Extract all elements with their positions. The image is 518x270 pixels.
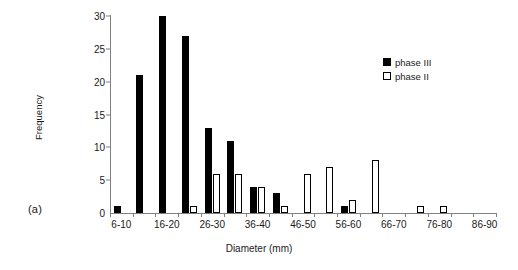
x-tick-mark	[224, 213, 225, 217]
x-tick-mark	[314, 213, 315, 217]
bar-phase-iii-16-20	[159, 16, 166, 213]
bar-phase-ii-21-25	[190, 206, 197, 213]
x-tick-mark	[337, 213, 338, 217]
x-tick-label: 46-50	[290, 219, 316, 230]
x-tick-mark	[382, 213, 383, 217]
x-tick-label: 86-90	[472, 219, 498, 230]
legend-label-phase-ii: phase II	[395, 71, 429, 82]
bar-phase-ii-36-40	[258, 187, 265, 213]
bar-phase-ii-56-60	[349, 200, 356, 213]
x-tick-mark	[269, 213, 270, 217]
x-tick-mark	[178, 213, 179, 217]
x-tick-label: 26-30	[199, 219, 225, 230]
bar-phase-iii-41-45	[273, 193, 280, 213]
x-tick-label: 36-40	[245, 219, 271, 230]
panel-label: (a)	[28, 203, 42, 215]
x-tick-mark	[133, 213, 134, 217]
x-tick-mark	[155, 213, 156, 217]
x-tick-label: 76-80	[426, 219, 452, 230]
x-tick-label: 6-10	[111, 219, 131, 230]
bar-phase-ii-31-35	[235, 174, 242, 213]
bar-phase-ii-76-80	[440, 206, 447, 213]
x-tick-mark	[201, 213, 202, 217]
x-axis-line	[110, 213, 497, 214]
bar-phase-iii-6-10	[114, 206, 121, 213]
y-axis-title: Frequency	[33, 58, 44, 178]
x-tick-mark	[360, 213, 361, 217]
y-tick-label: 0	[99, 208, 110, 219]
bar-phase-ii-26-30	[213, 174, 220, 213]
x-tick-mark	[110, 213, 111, 217]
x-tick-label: 66-70	[381, 219, 407, 230]
bar-phase-ii-41-45	[281, 206, 288, 213]
bar-phase-iii-36-40	[250, 187, 257, 213]
bar-phase-iii-31-35	[227, 141, 234, 213]
legend-swatch-filled-square-icon	[383, 58, 391, 66]
x-tick-label: 16-20	[154, 219, 180, 230]
x-tick-mark	[473, 213, 474, 217]
bar-phase-ii-46-50	[304, 174, 311, 213]
y-tick-mark	[106, 180, 110, 181]
plot-area: 051015202530	[110, 16, 496, 213]
x-tick-mark	[428, 213, 429, 217]
x-tick-label: 56-60	[336, 219, 362, 230]
x-tick-mark	[451, 213, 452, 217]
bar-phase-iii-26-30	[205, 128, 212, 213]
y-tick-mark	[106, 48, 110, 49]
bar-phase-iii-56-60	[341, 206, 348, 213]
bar-phase-ii-71-75	[417, 206, 424, 213]
chart-legend: phase III phase II	[383, 55, 431, 83]
y-tick-mark	[106, 16, 110, 17]
x-tick-mark	[292, 213, 293, 217]
y-tick-mark	[106, 114, 110, 115]
x-tick-mark	[246, 213, 247, 217]
histogram-figure: (a) Frequency 051015202530 Diameter (mm)…	[0, 0, 518, 270]
x-axis-title: Diameter (mm)	[0, 243, 518, 254]
x-tick-mark	[405, 213, 406, 217]
y-tick-mark	[106, 147, 110, 148]
legend-swatch-hollow-square-icon	[383, 72, 391, 80]
y-tick-mark	[106, 81, 110, 82]
bar-phase-ii-51-55	[326, 167, 333, 213]
bar-phase-iii-21-25	[182, 36, 189, 213]
legend-item-phase-ii: phase II	[383, 69, 431, 83]
bar-phase-iii-11-15	[136, 75, 143, 213]
x-tick-mark	[496, 213, 497, 217]
bar-phase-ii-61-65	[372, 160, 379, 213]
legend-label-phase-iii: phase III	[395, 57, 431, 68]
legend-item-phase-iii: phase III	[383, 55, 431, 69]
